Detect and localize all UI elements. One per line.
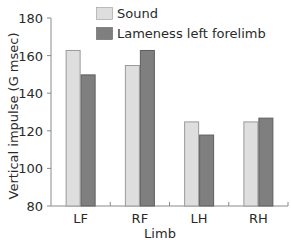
bar-lh-sound: [185, 122, 199, 206]
bar-lh-lame: [200, 135, 214, 206]
y-axis-title: Vertical impulse (G msec): [6, 32, 21, 199]
x-tick-label: RF: [132, 211, 149, 226]
x-tick-label: LF: [73, 211, 88, 226]
x-axis-title: Limb: [144, 226, 176, 241]
legend-swatch: [97, 28, 113, 40]
bar-rh-lame: [259, 118, 273, 206]
y-tick-label: 140: [18, 86, 43, 101]
bars: [66, 50, 273, 206]
legend-label: Lameness left forelimb: [117, 26, 266, 41]
y-tick-label: 180: [18, 11, 43, 26]
x-tick-label: LH: [191, 211, 208, 226]
x-tick-label: RH: [249, 211, 268, 226]
y-tick-label: 120: [18, 124, 43, 139]
y-tick-label: 160: [18, 49, 43, 64]
bar-lf-sound: [66, 50, 80, 206]
bar-rf-sound: [125, 66, 139, 207]
legend-label: Sound: [117, 6, 158, 21]
bar-rh-sound: [244, 122, 258, 206]
legend-swatch: [97, 8, 113, 20]
y-tick-label: 80: [26, 199, 43, 214]
y-tick-label: 100: [18, 161, 43, 176]
legend: SoundLameness left forelimb: [97, 6, 266, 41]
bar-lf-lame: [81, 75, 95, 206]
bar-chart: 80100120140160180 LFRFLHRH SoundLameness…: [0, 0, 291, 248]
y-axis: 80100120140160180: [18, 11, 51, 214]
bar-rf-lame: [140, 50, 154, 206]
